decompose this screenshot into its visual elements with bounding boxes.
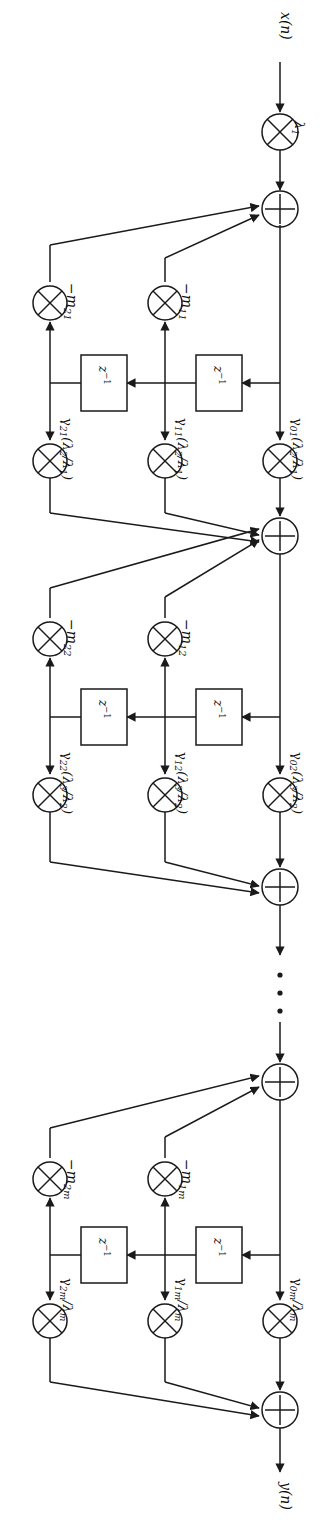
multiplier-lambda1 [262,114,298,150]
adder-output [262,1392,298,1428]
multiplier-g2m [33,1304,67,1338]
signal-flow-graph: .ln{stroke:#1a1a1a;stroke-width:1.5;fill… [0,0,328,1520]
multiplier-g12-s2 [148,778,182,812]
multiplier-g1m [148,1304,182,1338]
diagram-canvas: .ln{stroke:#1a1a1a;stroke-width:1.5;fill… [0,0,328,1520]
ellipsis-dots [277,972,282,1013]
multiplier-g0m [263,1304,297,1338]
adder-stage2-top [262,518,298,554]
adder-stage1-top [262,191,298,227]
multiplier-m1m [148,1162,182,1196]
multiplier-m21 [33,286,67,320]
input-branch [262,62,298,190]
multiplier-m12 [148,622,182,656]
adder-stage2-bottom [262,869,298,905]
adder-stagem-top [262,1064,298,1100]
multiplier-g01-s1 [263,444,297,478]
multiplier-g02-s2 [263,778,297,812]
multiplier-m22 [33,622,67,656]
multiplier-g11-s1 [148,444,182,478]
multiplier-g21-s1 [33,444,67,478]
multiplier-g22-s2 [33,778,67,812]
multiplier-m11 [148,286,182,320]
multiplier-m2m [33,1162,67,1196]
